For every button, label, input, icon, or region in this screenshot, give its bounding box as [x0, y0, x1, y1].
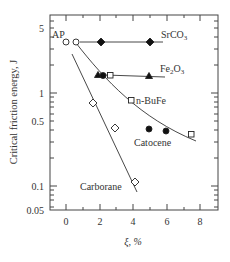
label-carborane: Carborane — [80, 181, 122, 192]
x-tick-4: 4 — [131, 216, 136, 227]
catocene-point — [146, 126, 152, 132]
x-axis-label: ξ, % — [124, 236, 142, 248]
nbufe-point — [108, 73, 114, 79]
carborane-point — [89, 99, 97, 107]
carborane-point — [131, 178, 139, 186]
markers — [63, 38, 194, 186]
y-tick-0.5: 0.5 — [32, 116, 45, 127]
label-nbufe: n-BuFe — [136, 95, 167, 106]
label-srco3: SrCO3 — [161, 29, 188, 42]
fe2o3-point — [146, 73, 153, 79]
y-axis-label: Critical friction energy, J — [8, 60, 19, 165]
y-tick-5: 5 — [39, 23, 44, 34]
label-catocene: Catocene — [134, 137, 172, 148]
x-tick-2: 2 — [98, 216, 103, 227]
carborane-point — [111, 124, 119, 132]
nbufe-point — [129, 98, 135, 104]
y-tick-0.05: 0.05 — [27, 205, 45, 216]
label-fe2o3: Fe2O3 — [160, 63, 185, 76]
x-tick-8: 8 — [198, 216, 203, 227]
ap-point — [73, 39, 79, 45]
catocene-point — [100, 73, 106, 79]
x-tick-0: 0 — [64, 216, 69, 227]
label-ap: AP — [52, 29, 65, 40]
y-tick-0.1: 0.1 — [32, 181, 45, 192]
catocene-curve — [76, 43, 196, 141]
nbufe-point — [189, 132, 195, 138]
srco3-point — [97, 38, 105, 46]
y-tick-1: 1 — [39, 88, 44, 99]
srco3-point — [146, 38, 154, 46]
x-tick-6: 6 — [165, 216, 170, 227]
friction-energy-chart: 0 2 4 6 8 5 1 0.5 0.1 0.05 ξ, % Critical… — [0, 0, 230, 262]
catocene-point — [163, 128, 169, 134]
fe2o3-line — [105, 75, 165, 77]
